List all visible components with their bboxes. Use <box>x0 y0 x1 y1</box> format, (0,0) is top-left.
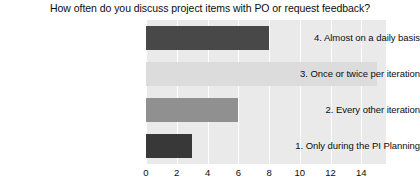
x-axis-tick-label: 2 <box>167 167 187 179</box>
x-axis-tick-label: 10 <box>290 167 310 179</box>
chart-title: How often do you discuss project items w… <box>0 1 420 15</box>
x-axis-tick-label: 14 <box>351 167 371 179</box>
bar[interactable] <box>146 134 192 158</box>
y-axis-label: 3. Once or twice per iteration <box>278 68 420 80</box>
y-axis-label: 2. Every other iteration <box>278 104 420 116</box>
bar-chart: How often do you discuss project items w… <box>0 0 420 193</box>
bar[interactable] <box>146 26 269 50</box>
y-axis-label: 4. Almost on a daily basis <box>278 32 420 44</box>
x-axis-tick-label: 12 <box>321 167 341 179</box>
x-axis-tick-label: 0 <box>136 167 156 179</box>
x-axis-tick-label: 4 <box>198 167 218 179</box>
bar[interactable] <box>146 98 238 122</box>
x-axis-tick-label: 6 <box>228 167 248 179</box>
x-axis-tick-label: 8 <box>259 167 279 179</box>
y-axis-label: 1. Only during the PI Planning <box>278 140 420 152</box>
